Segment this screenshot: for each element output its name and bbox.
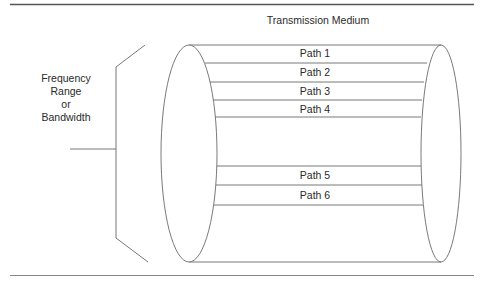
frequency-range-label: Frequency Range or Bandwidth bbox=[28, 72, 104, 124]
frequency-range-line2: or bbox=[28, 98, 104, 111]
path-label-6: Path 6 bbox=[300, 189, 330, 201]
path-label-4: Path 4 bbox=[300, 103, 330, 115]
frequency-range-line1: Frequency Range bbox=[28, 72, 104, 98]
diagram-canvas bbox=[0, 0, 492, 286]
cylinder-right-end bbox=[421, 45, 461, 262]
bandwidth-bracket bbox=[116, 45, 148, 262]
cylinder-left-end bbox=[161, 45, 217, 262]
path-label-2: Path 2 bbox=[300, 66, 330, 78]
path-label-1: Path 1 bbox=[300, 47, 330, 59]
diagram-title: Transmission Medium bbox=[267, 14, 369, 26]
frequency-range-line3: Bandwidth bbox=[28, 111, 104, 124]
path-label-3: Path 3 bbox=[300, 85, 330, 97]
path-label-5: Path 5 bbox=[300, 169, 330, 181]
